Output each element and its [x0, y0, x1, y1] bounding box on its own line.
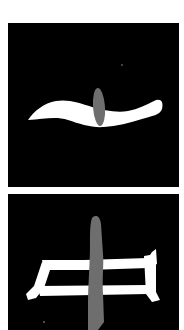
- bottom-panel: Character 中 with highlighted vertical st…: [8, 194, 179, 330]
- character-zhong-image: [8, 194, 179, 330]
- highlighted-vertical-stroke: [88, 216, 104, 330]
- character-yi-image: [8, 23, 179, 187]
- top-panel: Character 一 with highlighted vertical st…: [8, 23, 179, 187]
